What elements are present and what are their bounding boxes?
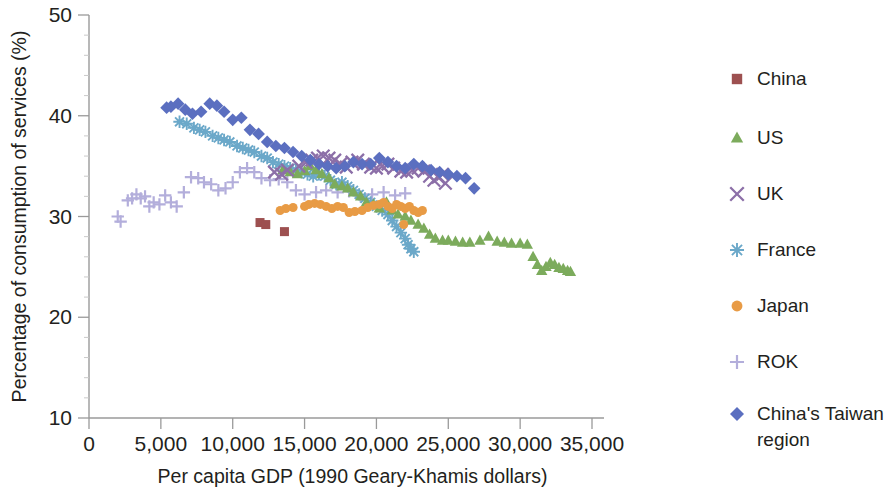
legend-item-rok[interactable]: ROK — [730, 351, 799, 372]
legend-label: China's Taiwan — [757, 403, 884, 424]
data-point-marker — [468, 182, 481, 195]
data-point-marker — [219, 182, 231, 194]
legend-label: Japan — [757, 295, 809, 316]
scatter-chart-figure: 102030405005,00010,00015,00020,00025,000… — [0, 0, 892, 492]
legend-label-line2: region — [757, 429, 810, 450]
y-axis-tick-label: 50 — [49, 3, 72, 26]
data-point-marker — [464, 237, 475, 247]
data-point-marker — [483, 231, 494, 241]
legend-marker-x-icon — [730, 187, 744, 201]
chart-canvas: 102030405005,00010,00015,00020,00025,000… — [0, 0, 892, 492]
chart-legend: ChinaUSUKFranceJapanROKChina's Taiwanreg… — [730, 68, 884, 450]
y-axis-tick-label: 10 — [49, 406, 72, 429]
x-axis-tick-label: 35,000 — [560, 432, 624, 455]
data-point-marker — [255, 172, 267, 184]
data-point-marker — [153, 198, 165, 210]
legend-marker-triangle-icon — [731, 131, 743, 142]
data-point-marker — [227, 176, 239, 188]
legend-item-china[interactable]: China — [732, 68, 807, 89]
data-point-marker — [377, 186, 389, 198]
y-axis-tick-label: 20 — [49, 305, 72, 328]
x-axis-tick-label: 0 — [83, 432, 95, 455]
data-series-group — [112, 97, 577, 276]
data-point-marker — [459, 172, 472, 185]
legend-marker-diamond-icon — [730, 407, 744, 421]
x-axis-tick-label: 5,000 — [135, 432, 188, 455]
data-point-marker — [212, 184, 224, 196]
legend-marker-plus-icon — [730, 355, 744, 369]
x-axis-tick-label: 20,000 — [344, 432, 408, 455]
legend-label: France — [757, 239, 816, 260]
data-point-marker — [178, 186, 190, 198]
y-axis-tick-label: 30 — [49, 205, 72, 228]
legend-item-uk[interactable]: UK — [730, 183, 783, 204]
legend-label: US — [757, 127, 783, 148]
data-point-marker — [195, 105, 208, 118]
data-point-marker — [389, 189, 401, 201]
data-point-marker — [399, 220, 408, 229]
data-point-marker — [235, 111, 248, 124]
legend-item-japan[interactable]: Japan — [732, 295, 809, 316]
x-axis-tick-label: 10,000 — [201, 432, 265, 455]
series-us — [277, 160, 576, 276]
x-axis-tick-label: 25,000 — [416, 432, 480, 455]
data-point-marker — [399, 187, 411, 199]
legend-label: ROK — [757, 351, 799, 372]
data-point-marker — [281, 176, 293, 188]
legend-label: UK — [757, 183, 784, 204]
y-axis-tick-label: 40 — [49, 104, 72, 127]
data-point-marker — [310, 186, 322, 198]
axis-tick-labels: 102030405005,00010,00015,00020,00025,000… — [49, 3, 624, 455]
x-axis-title: Per capita GDP (1990 Geary-Khamis dollar… — [158, 465, 548, 487]
data-point-marker — [159, 189, 171, 201]
data-point-marker — [261, 220, 270, 229]
legend-item-us[interactable]: US — [731, 127, 784, 148]
legend-item-china-s-taiwan-region[interactable]: China's Taiwanregion — [730, 403, 884, 450]
legend-item-france[interactable]: France — [730, 239, 816, 260]
series-china — [256, 218, 289, 236]
legend-label: China — [757, 68, 807, 89]
data-point-marker — [408, 246, 420, 258]
data-point-marker — [205, 178, 217, 190]
data-point-marker — [280, 227, 289, 236]
legend-marker-circle-icon — [732, 301, 743, 312]
y-axis-title: Percentage of consumption of services (%… — [8, 31, 30, 403]
legend-marker-asterisk-icon — [730, 243, 744, 257]
x-axis-tick-label: 30,000 — [488, 432, 552, 455]
data-point-marker — [276, 206, 285, 215]
axes-group — [78, 15, 604, 429]
legend-marker-square-icon — [732, 74, 742, 84]
data-point-marker — [418, 206, 427, 215]
x-axis-tick-label: 15,000 — [272, 432, 336, 455]
